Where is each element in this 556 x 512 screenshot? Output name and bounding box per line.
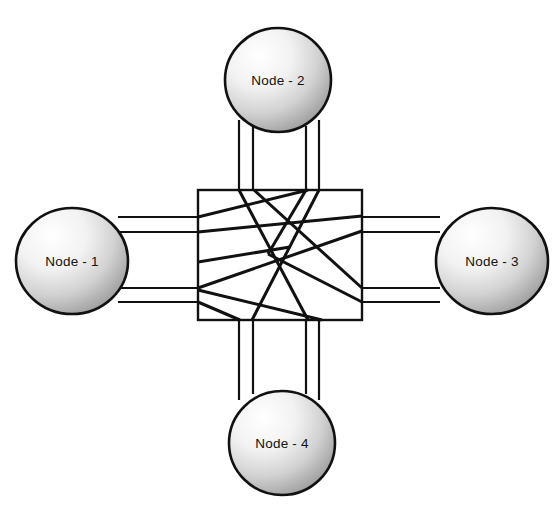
node-2[interactable]: Node - 2	[225, 28, 331, 132]
node-1[interactable]: Node - 1	[16, 208, 128, 314]
node-4-label: Node - 4	[255, 436, 309, 451]
link-bundle-node-3	[362, 217, 440, 302]
node-4[interactable]: Node - 4	[229, 391, 335, 495]
node-1-label: Node - 1	[45, 254, 98, 269]
node-3-label: Node - 3	[465, 254, 518, 269]
network-diagram-canvas: Node - 1 Node - 2 Node - 3 Node - 4	[0, 0, 556, 512]
network-diagram-svg: Node - 1 Node - 2 Node - 3 Node - 4	[0, 0, 556, 512]
link-bundle-node-4	[239, 320, 319, 400]
link-bundle-node-1	[118, 217, 198, 302]
node-2-label: Node - 2	[251, 73, 304, 88]
node-3[interactable]: Node - 3	[436, 208, 548, 314]
